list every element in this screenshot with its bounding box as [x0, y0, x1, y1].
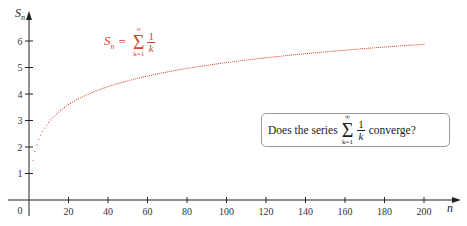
question-sigma: ∞ Σ k=1 [342, 114, 354, 146]
formula-fraction: 1 k [147, 31, 155, 54]
origin-label: 0 [18, 205, 23, 216]
formula-sigma: n Σ k=1 [133, 26, 145, 58]
x-tick-label: 200 [417, 206, 432, 217]
convergence-question-box: Does the series ∞ Σ k=1 1 k converge? [261, 113, 450, 147]
x-tick-label: 20 [64, 206, 74, 217]
x-tick-label: 160 [338, 206, 353, 217]
question-prefix: Does the series [268, 124, 338, 136]
x-tick-label: 80 [182, 206, 192, 217]
x-tick-label: 60 [143, 206, 153, 217]
partial-sum-formula: Sn = n Σ k=1 1 k [104, 26, 155, 58]
y-axis: 123456 Sn 0 [15, 6, 33, 216]
x-axis: 20406080100120140160180200 n [8, 197, 461, 217]
y-axis-title: Sn [15, 6, 25, 22]
x-axis-title: n [447, 201, 453, 215]
question-suffix: converge? [369, 124, 416, 136]
x-tick-label: 120 [259, 206, 274, 217]
y-tick-label: 3 [18, 115, 23, 126]
y-tick-label: 6 [18, 36, 23, 47]
formula-lhs: Sn [104, 33, 115, 51]
y-tick-label: 2 [18, 142, 23, 153]
question-fraction: 1 k [357, 119, 365, 142]
formula-equals: = [119, 34, 126, 50]
y-tick-label: 4 [18, 89, 23, 100]
y-tick-label: 1 [18, 168, 23, 179]
y-tick-label: 5 [18, 62, 23, 73]
x-tick-label: 180 [377, 206, 392, 217]
x-tick-label: 40 [103, 206, 113, 217]
x-tick-label: 140 [298, 206, 313, 217]
x-tick-label: 100 [219, 206, 234, 217]
